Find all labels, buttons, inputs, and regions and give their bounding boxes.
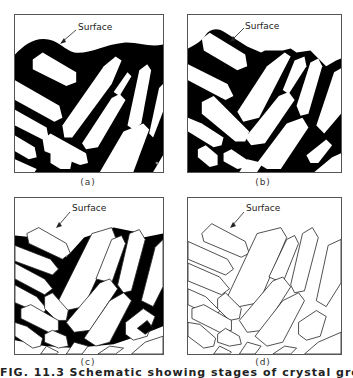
figure-caption-fragment: FIG. 11.3 Schematic showing stages of cr…: [0, 366, 353, 378]
